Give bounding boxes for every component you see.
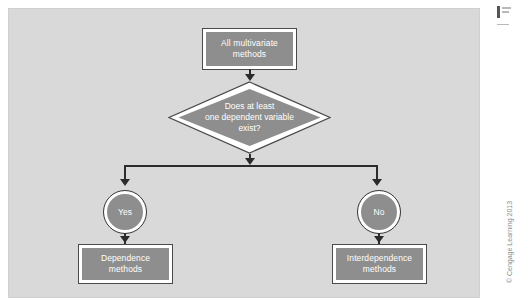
node-no[interactable]: No [358, 191, 400, 233]
node-dependence-methods[interactable]: Dependence methods [79, 245, 172, 283]
arrow-head-icon [120, 179, 130, 186]
copyright-credit: © Cengage Learning 2013 [501, 182, 517, 302]
cropped-caption-mark [497, 6, 511, 32]
edge-split-bar [124, 165, 376, 167]
node-label-line: methods [101, 264, 150, 275]
arrow-head-icon [245, 74, 255, 81]
arrow-head-icon [372, 179, 382, 186]
node-label-line: All multivariate [221, 38, 278, 49]
figure-root: All multivariate methods Does at least o… [0, 0, 517, 306]
node-yes[interactable]: Yes [104, 191, 146, 233]
node-all-multivariate-methods[interactable]: All multivariate methods [203, 29, 296, 69]
node-label: No [374, 207, 385, 217]
node-interdependence-methods[interactable]: Interdependence methods [333, 245, 426, 283]
arrow-head-icon [374, 236, 384, 243]
node-label-line: methods [221, 49, 278, 60]
node-label-line: methods [347, 264, 412, 275]
node-label: Yes [118, 207, 132, 217]
diamond-shape-icon [168, 81, 331, 154]
copyright-text: © Cengage Learning 2013 [506, 201, 513, 283]
node-decision-dependent-variable[interactable]: Does at least one dependent variable exi… [168, 81, 331, 154]
node-label-line: Interdependence [347, 253, 412, 264]
node-label-line: Dependence [101, 253, 150, 264]
arrow-head-icon [245, 158, 255, 165]
arrow-head-icon [120, 236, 130, 243]
